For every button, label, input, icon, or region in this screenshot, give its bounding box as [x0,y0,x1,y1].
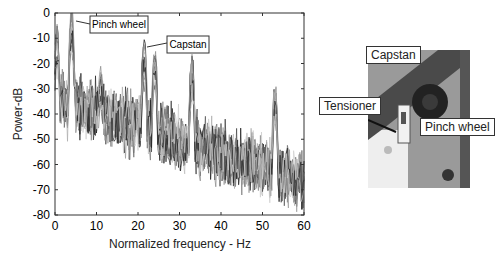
power-spectrum-chart: 01020304050600-10-20-30-40-50-60-70-80 N… [0,0,320,262]
svg-text:-60: -60 [33,158,51,172]
svg-text:60: 60 [297,219,311,233]
svg-text:-20: -20 [33,57,51,71]
svg-text:-30: -30 [33,82,51,96]
capstan-leader [147,43,167,47]
svg-text:40: 40 [214,219,228,233]
pinch-wheel-photo-label: Pinch wheel [420,118,495,136]
svg-text:20: 20 [131,219,145,233]
svg-text:10: 10 [90,219,104,233]
pinch-wheel-callout-text: Pinch wheel [92,19,146,30]
pinch-wheel-leader [76,21,90,24]
svg-text:-70: -70 [33,183,51,197]
svg-text:-50: -50 [33,132,51,146]
capstan-photo-label: Capstan [366,46,421,64]
y-axis-label: Power-dB [11,88,25,141]
svg-text:50: 50 [256,219,270,233]
svg-text:-10: -10 [33,31,51,45]
tensioner-photo-label: Tensioner [319,97,381,115]
x-axis-label: Normalized frequency - Hz [109,237,251,251]
svg-text:-80: -80 [33,208,51,222]
svg-text:0: 0 [43,6,50,20]
svg-text:0: 0 [52,219,59,233]
capstan-callout-text: Capstan [169,39,206,50]
svg-text:-40: -40 [33,107,51,121]
svg-text:30: 30 [173,219,187,233]
